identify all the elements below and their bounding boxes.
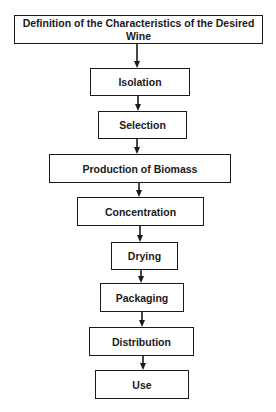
arrow-concentration-to-drying xyxy=(137,226,143,242)
step-selection: Selection xyxy=(98,111,187,139)
step-concentration: Concentration xyxy=(77,197,204,226)
arrow-distribution-to-use xyxy=(140,356,146,370)
arrow-drying-to-packaging xyxy=(138,270,144,283)
step-use: Use xyxy=(95,370,189,399)
step-drying-label: Drying xyxy=(128,250,161,262)
step-packaging-label: Packaging xyxy=(116,292,169,304)
step-production-label: Production of Biomass xyxy=(83,163,198,175)
arrow-selection-to-production xyxy=(134,139,140,154)
step-definition-label: Definition of the Characteristics of the… xyxy=(17,17,260,43)
step-use-label: Use xyxy=(132,379,151,391)
step-distribution-label: Distribution xyxy=(112,336,171,348)
step-packaging: Packaging xyxy=(100,283,184,312)
step-isolation: Isolation xyxy=(90,68,190,96)
flowchart: Definition of the Characteristics of the… xyxy=(0,0,276,412)
step-concentration-label: Concentration xyxy=(105,206,176,218)
step-selection-label: Selection xyxy=(119,119,166,131)
step-production: Production of Biomass xyxy=(49,154,231,183)
arrow-isolation-to-selection xyxy=(135,96,141,111)
step-isolation-label: Isolation xyxy=(118,76,161,88)
step-definition: Definition of the Characteristics of the… xyxy=(14,15,263,44)
arrow-definition-to-isolation xyxy=(134,44,140,68)
arrow-packaging-to-distribution xyxy=(139,312,145,327)
step-distribution: Distribution xyxy=(89,327,194,356)
arrow-production-to-concentration xyxy=(136,183,142,197)
step-drying: Drying xyxy=(111,242,178,270)
